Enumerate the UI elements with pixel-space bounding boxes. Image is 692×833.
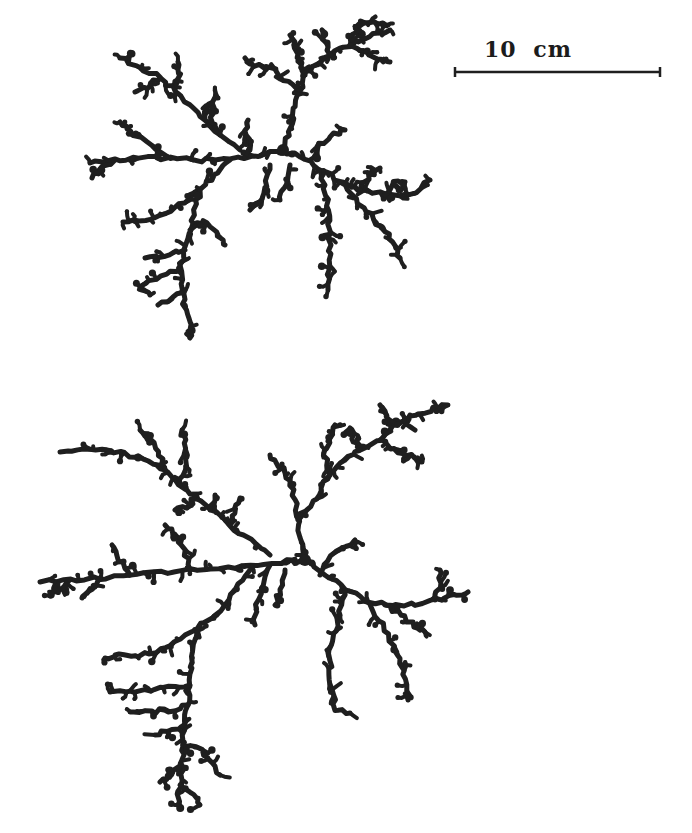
fractal-tip bbox=[359, 30, 364, 35]
fractal-tip bbox=[262, 586, 269, 593]
fractal-twig bbox=[185, 200, 194, 203]
fractal-tip bbox=[155, 143, 162, 150]
fractal-tip bbox=[318, 262, 326, 270]
fractal-twig bbox=[388, 24, 393, 25]
fractal-twig bbox=[179, 729, 183, 736]
fractal-tip bbox=[145, 573, 151, 579]
fractal-twig bbox=[140, 67, 149, 68]
fractal-twig bbox=[385, 448, 390, 449]
fractal-twig bbox=[382, 33, 385, 36]
fractal-tip bbox=[340, 545, 346, 551]
fractal-tip bbox=[394, 604, 400, 610]
fractal-twig bbox=[391, 255, 397, 256]
fractal-twig bbox=[195, 629, 197, 639]
fractal-tip bbox=[219, 123, 226, 130]
fractal-twig bbox=[102, 449, 109, 451]
fractal-twig bbox=[318, 144, 324, 146]
fractal-twig bbox=[160, 213, 166, 214]
fractal-twig bbox=[221, 512, 224, 516]
fractal-tip bbox=[395, 683, 400, 688]
fractal-tip bbox=[402, 239, 407, 244]
fractal-twig bbox=[356, 41, 364, 43]
fractal-tip bbox=[360, 542, 365, 547]
fractal-tip bbox=[315, 205, 321, 211]
fractal-tip bbox=[323, 294, 328, 299]
fractal-twig bbox=[415, 457, 420, 458]
fractal-twig bbox=[159, 710, 168, 713]
fractal-twig bbox=[178, 766, 179, 774]
fractal-twig bbox=[139, 290, 149, 293]
fractal-tip bbox=[375, 50, 380, 55]
fractal-twig bbox=[187, 158, 193, 161]
fractal-twig bbox=[335, 425, 344, 426]
fractal-branch bbox=[320, 170, 331, 290]
fractal-twig bbox=[355, 540, 356, 546]
fractal-twig bbox=[321, 444, 325, 450]
fractal-tip bbox=[401, 459, 406, 464]
fractal-twig bbox=[405, 182, 406, 189]
fractal-twig bbox=[381, 59, 386, 61]
fractal-tip bbox=[296, 512, 304, 520]
fractal-tip bbox=[373, 15, 377, 19]
fractal-twig bbox=[86, 157, 90, 163]
fractal-tip bbox=[121, 559, 127, 565]
fractal-twig bbox=[279, 71, 288, 76]
fractal-tip bbox=[439, 586, 445, 592]
fractal-twig bbox=[175, 477, 180, 479]
fractal-twig bbox=[150, 293, 154, 295]
fractal-tip bbox=[148, 209, 153, 214]
fractal-twig bbox=[340, 456, 348, 463]
fractal-tip bbox=[277, 597, 284, 604]
fractal-tip bbox=[201, 124, 205, 128]
fractal-twig bbox=[178, 81, 182, 82]
fractal-twig bbox=[165, 467, 166, 472]
fractal-twig bbox=[259, 599, 262, 604]
fractal-tip bbox=[184, 193, 190, 199]
fractal-tip bbox=[246, 72, 250, 76]
fractal-tip bbox=[125, 707, 129, 711]
fractal-tip bbox=[335, 165, 341, 171]
fractal-tip bbox=[248, 139, 254, 145]
fractal-tip bbox=[149, 269, 156, 276]
fractal-tip bbox=[200, 507, 204, 511]
fractal-twig bbox=[190, 663, 192, 667]
fractal-tip bbox=[321, 30, 329, 38]
fractal-twig bbox=[220, 775, 230, 778]
fractal-tip bbox=[400, 411, 405, 416]
fractal-tip bbox=[81, 442, 87, 448]
fractal-twig bbox=[357, 182, 364, 183]
fractal-twig bbox=[368, 167, 376, 170]
fractal-twig bbox=[123, 222, 124, 228]
fractal-tip bbox=[105, 681, 111, 687]
fractal-twig bbox=[63, 587, 65, 595]
fractal-tip bbox=[375, 28, 381, 34]
fractal-tip bbox=[364, 214, 370, 220]
fractal-twig bbox=[386, 183, 389, 192]
fractal-twig bbox=[190, 702, 197, 703]
fractal-tip bbox=[337, 233, 343, 239]
fractal-tip bbox=[180, 290, 185, 295]
fractal-tip bbox=[263, 166, 267, 170]
fractal-tip bbox=[239, 496, 245, 502]
fractal-twig bbox=[195, 747, 200, 748]
fractal-twig bbox=[102, 164, 110, 166]
fractal-twig bbox=[390, 30, 393, 34]
fractal-tip bbox=[113, 562, 117, 566]
fractal-twig bbox=[151, 219, 154, 222]
fractal-tip bbox=[127, 50, 134, 57]
fractal-tip bbox=[154, 249, 159, 254]
fractal-tip bbox=[88, 571, 94, 577]
fractal-tip bbox=[75, 573, 80, 578]
fractal-twig bbox=[149, 647, 150, 654]
fractal-twig bbox=[183, 475, 191, 476]
fractal-twig bbox=[352, 179, 354, 187]
fractal-twig bbox=[152, 83, 158, 84]
fractal-tip bbox=[208, 746, 215, 753]
fractal-tip bbox=[169, 734, 176, 741]
fractal-tip bbox=[439, 409, 445, 415]
fractal-twig bbox=[217, 232, 219, 238]
fractal-twig bbox=[180, 258, 189, 263]
fractal-twig bbox=[176, 271, 180, 273]
fractal-tip bbox=[146, 440, 152, 446]
fractal-tip bbox=[82, 594, 87, 599]
